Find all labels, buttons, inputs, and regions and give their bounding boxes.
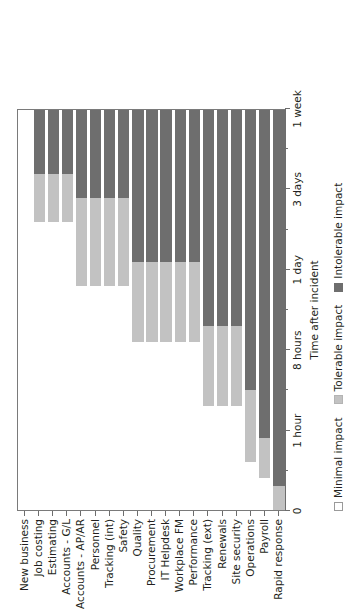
segment-tolerable bbox=[146, 262, 157, 342]
category-label: Estimating bbox=[47, 519, 58, 575]
bar-payroll[interactable] bbox=[259, 110, 270, 510]
legend-label: Minimal impact bbox=[332, 417, 344, 498]
segment-intolerable bbox=[203, 110, 214, 326]
bar-rapid-response[interactable] bbox=[273, 110, 284, 510]
bar-quality[interactable] bbox=[132, 110, 143, 510]
value-tick bbox=[285, 188, 290, 189]
value-minor-tick bbox=[285, 470, 288, 471]
bar-safety[interactable] bbox=[118, 110, 129, 510]
bar-personnel[interactable] bbox=[90, 110, 101, 510]
category-label: Quality bbox=[131, 519, 142, 557]
segment-intolerable bbox=[104, 110, 115, 198]
legend-swatch-intolerable bbox=[334, 283, 343, 292]
bar-it-helpdesk[interactable] bbox=[160, 110, 171, 510]
category-label: Workplace FM bbox=[174, 519, 185, 592]
bar-performance[interactable] bbox=[189, 110, 200, 510]
segment-intolerable bbox=[146, 110, 157, 262]
segment-minimal bbox=[76, 286, 87, 510]
value-axis-title: Time after incident bbox=[308, 109, 320, 511]
segment-tolerable bbox=[203, 326, 214, 406]
segment-intolerable bbox=[90, 110, 101, 198]
bar-procurement[interactable] bbox=[146, 110, 157, 510]
bar-tracking-int[interactable] bbox=[104, 110, 115, 510]
category-tick bbox=[52, 511, 53, 516]
segment-minimal bbox=[132, 342, 143, 510]
value-tick bbox=[285, 349, 290, 350]
category-label: Payroll bbox=[258, 519, 269, 554]
category-label: Safety bbox=[117, 519, 128, 553]
segment-intolerable bbox=[175, 110, 186, 262]
bar-renewals[interactable] bbox=[217, 110, 228, 510]
legend-item-minimal[interactable]: Minimal impact bbox=[332, 417, 344, 511]
segment-tolerable bbox=[175, 262, 186, 342]
segment-intolerable bbox=[160, 110, 171, 262]
segment-tolerable bbox=[273, 486, 284, 510]
bar-workplace-fm[interactable] bbox=[175, 110, 186, 510]
category-tick bbox=[250, 511, 251, 516]
legend-label: Intolerable impact bbox=[332, 183, 344, 279]
category-label: Renewals bbox=[216, 519, 227, 569]
segment-tolerable bbox=[48, 174, 59, 222]
segment-tolerable bbox=[34, 174, 45, 222]
segment-tolerable bbox=[160, 262, 171, 342]
category-tick bbox=[179, 511, 180, 516]
value-minor-tick bbox=[285, 148, 288, 149]
category-label: IT Helpdesk bbox=[160, 519, 171, 580]
bar-operations[interactable] bbox=[245, 110, 256, 510]
segment-tolerable bbox=[189, 262, 200, 342]
value-tick-label: 0 bbox=[291, 508, 303, 515]
value-axis-line bbox=[285, 109, 286, 511]
category-label: Personnel bbox=[89, 519, 100, 570]
chart-legend: Minimal impactTolerable impactIntolerabl… bbox=[332, 81, 344, 511]
category-label: New business bbox=[19, 519, 30, 591]
bar-accounts-ap-ar[interactable] bbox=[76, 110, 87, 510]
legend-label: Tolerable impact bbox=[332, 305, 344, 392]
category-tick bbox=[222, 511, 223, 516]
segment-minimal bbox=[189, 342, 200, 510]
category-label: Operations bbox=[244, 519, 255, 577]
segment-minimal bbox=[48, 222, 59, 510]
category-tick bbox=[123, 511, 124, 516]
value-tick bbox=[285, 510, 290, 511]
segment-tolerable bbox=[90, 198, 101, 286]
value-tick-label: 8 hours bbox=[291, 330, 303, 370]
legend-item-intolerable[interactable]: Intolerable impact bbox=[332, 183, 344, 292]
category-tick bbox=[165, 511, 166, 516]
legend-swatch-minimal bbox=[334, 502, 343, 511]
value-tick bbox=[285, 108, 290, 109]
segment-intolerable bbox=[76, 110, 87, 198]
segment-intolerable bbox=[62, 110, 73, 174]
segment-minimal bbox=[160, 342, 171, 510]
bar-tracking-ext[interactable] bbox=[203, 110, 214, 510]
segment-intolerable bbox=[273, 110, 284, 486]
segment-minimal bbox=[231, 406, 242, 510]
bar-estimating[interactable] bbox=[48, 110, 59, 510]
segment-minimal bbox=[104, 286, 115, 510]
segment-intolerable bbox=[132, 110, 143, 262]
category-tick bbox=[95, 511, 96, 516]
segment-intolerable bbox=[231, 110, 242, 326]
category-label: Site security bbox=[230, 519, 241, 584]
category-tick bbox=[278, 511, 279, 516]
value-minor-tick bbox=[285, 309, 288, 310]
value-tick-label: 1 hour bbox=[291, 414, 303, 448]
segment-tolerable bbox=[217, 326, 228, 406]
segment-intolerable bbox=[245, 110, 256, 390]
category-tick bbox=[80, 511, 81, 516]
segment-intolerable bbox=[259, 110, 270, 438]
value-tick-label: 1 week bbox=[291, 90, 303, 128]
category-tick bbox=[137, 511, 138, 516]
category-label: Tracking (ext) bbox=[202, 519, 213, 591]
segment-minimal bbox=[259, 478, 270, 510]
value-tick-label: 1 day bbox=[291, 255, 303, 284]
bar-new-business[interactable] bbox=[19, 110, 30, 510]
bar-site-security[interactable] bbox=[231, 110, 242, 510]
bar-accounts-g-l[interactable] bbox=[62, 110, 73, 510]
segment-minimal bbox=[203, 406, 214, 510]
category-tick bbox=[24, 511, 25, 516]
legend-item-tolerable[interactable]: Tolerable impact bbox=[332, 305, 344, 405]
segment-intolerable bbox=[48, 110, 59, 174]
bar-job-costing[interactable] bbox=[34, 110, 45, 510]
